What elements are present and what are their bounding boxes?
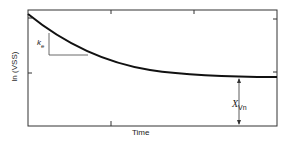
gap-label-sub: Vn: [238, 104, 247, 111]
arrow-head-up: [237, 78, 241, 83]
slope-label-sub: e: [41, 43, 44, 49]
slope-triangle: [49, 33, 88, 55]
plot-area: [0, 0, 291, 142]
arrow-head-down: [237, 120, 241, 125]
gap-label: XVn: [232, 98, 247, 111]
y-axis-label: ln (VSS): [10, 47, 19, 87]
decay-curve: [28, 14, 277, 77]
x-axis-label: Time: [132, 128, 149, 137]
slope-label: ke: [37, 38, 44, 49]
